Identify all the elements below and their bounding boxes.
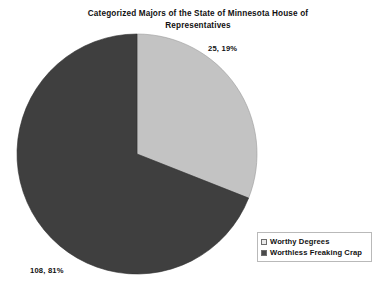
pie-data-label-worthless-freaking-crap: 108, 81% bbox=[30, 266, 64, 275]
chart-legend: Worthy Degrees Worthless Freaking Crap bbox=[257, 232, 372, 262]
pie-data-label-worthy-degrees: 25, 19% bbox=[208, 44, 237, 53]
pie-chart-figure: Categorized Majors of the State of Minne… bbox=[0, 0, 392, 299]
legend-label-worthless-freaking-crap: Worthless Freaking Crap bbox=[270, 248, 362, 257]
legend-swatch-icon-worthless-freaking-crap bbox=[261, 250, 267, 256]
legend-entry-worthy-degrees[interactable]: Worthy Degrees bbox=[261, 236, 367, 247]
legend-label-worthy-degrees: Worthy Degrees bbox=[270, 237, 330, 246]
legend-entry-worthless-freaking-crap[interactable]: Worthless Freaking Crap bbox=[261, 247, 367, 258]
legend-swatch-icon-worthy-degrees bbox=[261, 239, 267, 245]
